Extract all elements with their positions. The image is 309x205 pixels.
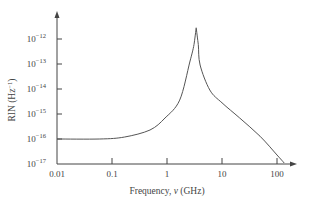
x-tick-label: 100 — [270, 169, 284, 179]
x-axis-label: Frequency, v (GHz) — [129, 186, 204, 197]
rin-curve — [57, 28, 284, 163]
x-tick-label: 10 — [218, 169, 228, 179]
y-axis-arrow-icon — [55, 11, 60, 18]
y-tick-label: 10−14 — [27, 82, 47, 94]
x-tick-label: 0.1 — [106, 169, 117, 179]
x-axis-ticks: 0.010.1110100 — [49, 158, 284, 179]
axes — [55, 11, 298, 167]
y-tick-label: 10−12 — [27, 32, 46, 44]
y-tick-label: 10−13 — [27, 57, 46, 69]
y-tick-label: 10−17 — [27, 157, 47, 169]
x-axis-arrow-icon — [290, 162, 297, 167]
x-tick-label: 0.01 — [49, 169, 65, 179]
y-axis-label: RIN (Hz−1) — [6, 78, 19, 121]
rin-chart: 10−1710−1610−1510−1410−1310−12 0.010.111… — [0, 0, 309, 205]
y-tick-label: 10−16 — [27, 132, 47, 144]
y-tick-label: 10−15 — [27, 107, 46, 119]
x-tick-label: 1 — [165, 169, 170, 179]
